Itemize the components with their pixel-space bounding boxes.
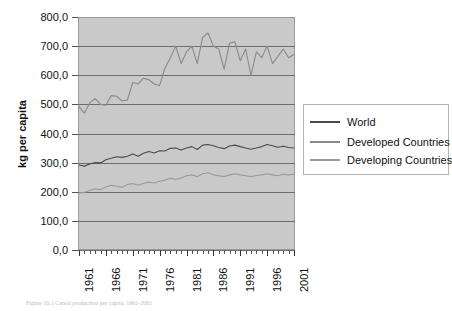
x-axis-tick-labels: 196119661971197619811986199119962001 [0,256,330,302]
y-tick-label: 400,0 [40,128,68,140]
x-tick-label: 2001 [298,268,310,292]
x-tick-mark [283,250,284,254]
y-tick-label: 200,0 [40,186,68,198]
x-tick-label: 1961 [83,268,95,292]
legend-label: Developing Countries [347,153,452,167]
plot-area [78,17,295,250]
legend-label: World [347,115,376,129]
y-tick-label: 600,0 [40,69,68,81]
x-tick-mark [278,250,279,254]
x-tick-mark [90,250,91,254]
series-line [79,145,294,167]
x-tick-label: 1981 [191,268,203,292]
x-tick-mark [192,250,193,254]
series-line [79,173,294,193]
x-tick-mark [262,250,263,254]
x-tick-mark [203,250,204,254]
y-axis-tick-labels: 800,0700,0600,0500,0400,0300,0200,0100,0… [0,0,78,250]
x-tick-mark [219,250,220,254]
x-tick-mark [246,250,247,254]
x-tick-mark [197,250,198,254]
x-tick-mark [208,250,209,254]
y-tick-label: 300,0 [40,157,68,169]
x-tick-mark [251,250,252,254]
x-tick-mark [289,250,290,254]
x-tick-mark [165,250,166,254]
legend-item[interactable]: Developed Countries [310,135,450,149]
y-tick-label: 800,0 [40,11,68,23]
legend-swatch-icon [310,159,340,161]
y-tick-label: 700,0 [40,40,68,52]
x-tick-mark [117,250,118,254]
legend-label: Developed Countries [347,135,450,149]
x-tick-mark [181,250,182,254]
legend-swatch-icon [310,121,340,123]
x-tick-mark [101,250,102,254]
x-tick-mark [84,250,85,254]
x-tick-mark [170,250,171,254]
x-tick-mark [95,250,96,254]
x-tick-label: 1966 [110,268,122,292]
chart-legend: WorldDeveloped CountriesDeveloping Count… [303,104,449,175]
series-lines [78,17,295,250]
series-line [79,33,294,113]
x-tick-mark [230,250,231,254]
legend-item[interactable]: Developing Countries [310,153,452,167]
x-tick-mark [154,250,155,254]
legend-item[interactable]: World [310,115,376,129]
x-tick-mark [176,250,177,254]
y-tick-label: 500,0 [40,98,68,110]
figure-caption: Figure 10.1 Cereal production per capita… [26,300,326,306]
x-tick-mark [138,250,139,254]
x-tick-mark [273,250,274,254]
x-tick-mark [122,250,123,254]
x-tick-label: 1971 [137,268,149,292]
y-tick-label: 0,0 [53,244,68,256]
x-tick-mark [149,250,150,254]
x-tick-mark [127,250,128,254]
x-tick-label: 1996 [271,268,283,292]
x-tick-label: 1986 [217,268,229,292]
x-tick-mark [256,250,257,254]
x-tick-mark [111,250,112,254]
legend-swatch-icon [310,141,340,143]
x-tick-mark [224,250,225,254]
x-tick-label: 1991 [244,268,256,292]
x-tick-mark [144,250,145,254]
x-tick-mark [235,250,236,254]
x-tick-label: 1976 [164,268,176,292]
y-tick-label: 100,0 [40,215,68,227]
